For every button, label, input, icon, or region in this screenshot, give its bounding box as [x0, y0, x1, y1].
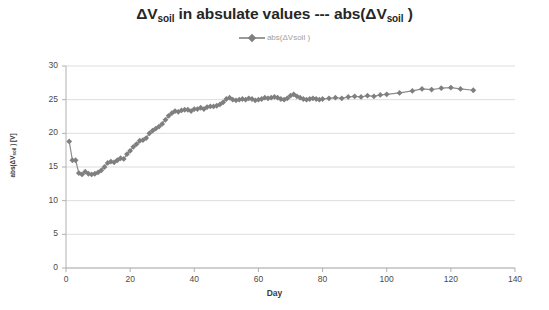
series-line [69, 88, 473, 175]
x-tick-label: 140 [495, 274, 535, 284]
data-point-marker [458, 86, 464, 92]
chart-figure: ΔVsoil in absulate values --- abs(ΔVsoil… [0, 0, 549, 310]
data-point-marker [409, 88, 415, 94]
data-point-marker [448, 85, 454, 91]
x-tick-label: 40 [174, 274, 214, 284]
data-point-marker [358, 94, 364, 100]
y-tick-label: 15 [22, 161, 58, 171]
y-tick-label: 5 [22, 228, 58, 238]
data-point-marker [419, 86, 425, 92]
data-point-marker [345, 94, 351, 100]
data-point-marker [365, 93, 371, 99]
y-axis-title-text-2: ) [V] [9, 133, 16, 147]
data-point-marker [73, 157, 79, 163]
y-tick-label: 0 [22, 262, 58, 272]
data-point-marker [377, 92, 383, 98]
y-tick-label: 20 [22, 127, 58, 137]
y-tick-label: 10 [22, 195, 58, 205]
data-point-marker [326, 95, 332, 101]
y-axis-title-text-1: abs(ΔV [9, 156, 16, 178]
data-point-marker [397, 90, 403, 96]
data-point-marker [352, 93, 358, 99]
x-tick-label: 60 [238, 274, 278, 284]
data-point-marker [371, 93, 377, 99]
x-tick-label: 120 [431, 274, 471, 284]
plot-area: 051015202530020406080100120140 [0, 0, 549, 310]
x-tick-label: 80 [303, 274, 343, 284]
plot-svg [0, 0, 549, 310]
x-tick-label: 20 [110, 274, 150, 284]
y-tick-label: 25 [22, 94, 58, 104]
y-tick-label: 30 [22, 60, 58, 70]
data-point-marker [339, 95, 345, 101]
data-point-marker [384, 91, 390, 97]
x-tick-label: 100 [367, 274, 407, 284]
x-tick-label: 0 [46, 274, 86, 284]
data-point-marker [66, 139, 72, 145]
x-axis-title: Day [0, 288, 549, 298]
data-point-marker [438, 85, 444, 91]
data-point-marker [429, 87, 435, 93]
y-axis-title-sub: soil [12, 148, 17, 156]
y-axis-title: abs(ΔVsoil ) [V] [9, 111, 16, 201]
data-point-marker [470, 87, 476, 93]
